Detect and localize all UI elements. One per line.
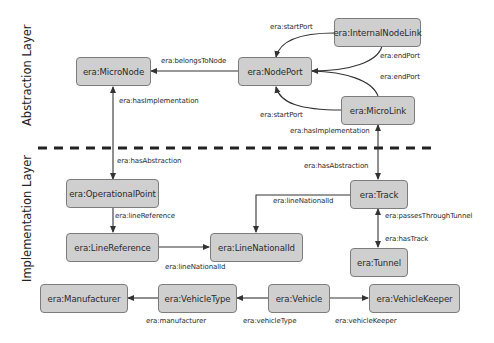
node-vehicle-keeper[interactable]: era:VehicleKeeper bbox=[369, 284, 460, 313]
label-ml-end-port: era:endPort bbox=[380, 74, 420, 81]
edge-ml-end-port bbox=[312, 71, 378, 96]
label-inl-end-port: era:endPort bbox=[380, 53, 420, 60]
node-track[interactable]: era:Track bbox=[350, 180, 408, 209]
node-manufacturer[interactable]: era:Manufacturer bbox=[40, 284, 128, 313]
label-microlink-has-implementation: era:hasImplementation bbox=[290, 128, 370, 135]
label-vehicle-type: era:vehicleType bbox=[243, 318, 296, 325]
label-line-reference: era:lineReference bbox=[115, 213, 175, 220]
label-has-track: era:hasTrack bbox=[385, 236, 428, 243]
node-internal-node-link[interactable]: era:InternalNodeLink bbox=[334, 18, 421, 47]
node-node-port[interactable]: era:NodePort bbox=[238, 57, 312, 86]
node-micro-link[interactable]: era:MicroLink bbox=[341, 96, 415, 125]
node-micro-node[interactable]: era:MicroNode bbox=[76, 57, 151, 86]
label-belongs-to-node: era:belongsToNode bbox=[161, 58, 226, 65]
node-line-reference[interactable]: era:LineReference bbox=[66, 233, 159, 262]
label-track-line-national-id: era:lineNationalId bbox=[273, 198, 333, 205]
ontology-diagram: Abstraction Layer Implementation Layer e… bbox=[0, 0, 494, 343]
label-inl-start-port: era:startPort bbox=[270, 24, 313, 31]
label-vehicle-keeper: era:vehicleKeeper bbox=[335, 318, 397, 325]
label-lr-line-national-id: era:lineNationalId bbox=[165, 264, 225, 271]
label-micronode-has-implementation: era:hasImplementation bbox=[119, 98, 199, 105]
edge-inl-start-port bbox=[276, 33, 334, 57]
node-vehicle[interactable]: era:Vehicle bbox=[268, 284, 330, 313]
label-op-has-abstraction: era:hasAbstraction bbox=[117, 158, 181, 165]
edge-inl-end-port bbox=[312, 46, 382, 71]
node-line-national-id[interactable]: era:LineNationalId bbox=[210, 233, 303, 262]
label-passes-through-tunnel: era:passesThroughTunnel bbox=[385, 213, 472, 220]
node-operational-point[interactable]: era:OperationalPoint bbox=[66, 179, 159, 208]
edge-ml-start-port bbox=[276, 87, 341, 110]
label-manufacturer: era:manufacturer bbox=[146, 318, 206, 325]
implementation-layer-label: Implementation Layer bbox=[22, 160, 36, 282]
abstraction-layer-label: Abstraction Layer bbox=[22, 26, 36, 126]
node-tunnel[interactable]: era:Tunnel bbox=[350, 248, 408, 277]
label-track-has-abstraction: era:hasAbstraction bbox=[304, 163, 368, 170]
label-ml-start-port: era:startPort bbox=[260, 112, 303, 119]
node-vehicle-type[interactable]: era:VehicleType bbox=[158, 284, 237, 313]
